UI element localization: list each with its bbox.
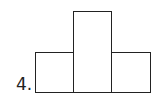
- middle-rectangle: [73, 11, 112, 93]
- left-rectangle: [35, 52, 74, 93]
- problem-number: 4.: [16, 74, 32, 94]
- right-rectangle: [111, 52, 151, 93]
